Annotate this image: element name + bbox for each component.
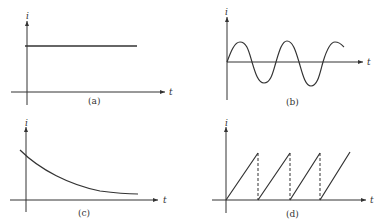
y-axis-label-b: i: [225, 7, 228, 17]
sawtooth-drops: [258, 153, 320, 200]
figure-canvas: [0, 0, 381, 224]
caption-a: (a): [88, 96, 100, 106]
caption-b: (b): [286, 97, 299, 107]
y-axis-label-d: i: [225, 118, 228, 128]
exponential-decay-curve: [20, 150, 138, 194]
panel-d: [212, 127, 366, 213]
panel-b: [227, 17, 363, 100]
sawtooth-ramps: [226, 152, 350, 200]
panel-a: [11, 21, 165, 105]
x-axis-label-d: t: [370, 195, 374, 205]
x-axis-label-b: t: [367, 57, 371, 67]
y-axis-label-a: i: [26, 11, 29, 21]
caption-d: (d): [286, 209, 299, 219]
caption-c: (c): [78, 208, 90, 218]
x-axis-label-c: t: [163, 195, 167, 205]
sine-wave: [227, 41, 344, 86]
panel-c: [10, 127, 158, 212]
y-axis-label-c: i: [25, 118, 28, 128]
x-axis-label-a: t: [169, 87, 173, 97]
